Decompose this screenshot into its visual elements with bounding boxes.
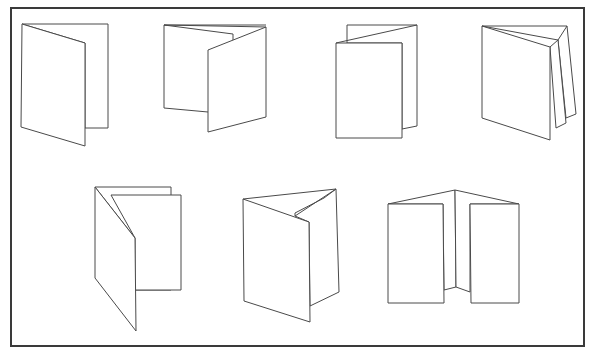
fold-3-short-fold: [336, 25, 417, 138]
fold-2-letter-fold: [164, 25, 266, 132]
fold-4-accordion-fold: [482, 26, 576, 140]
fold-edge: [243, 189, 336, 199]
fold-panel: [470, 204, 519, 303]
fold-6-roll-fold: [243, 189, 339, 322]
fold-panel: [482, 26, 550, 140]
fold-7-gate-fold: [388, 190, 519, 303]
fold-1-bifold: [21, 24, 108, 146]
fold-panel: [21, 24, 85, 146]
fold-5-gate-roll-fold: [95, 187, 181, 331]
fold-panel: [336, 43, 402, 138]
fold-diagram-canvas: [0, 0, 594, 353]
fold-panel: [388, 204, 444, 303]
